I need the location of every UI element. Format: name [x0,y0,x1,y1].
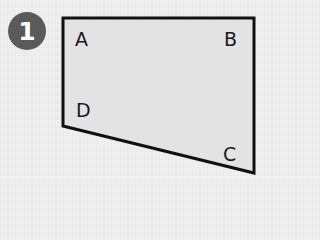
vertex-label-c: C [223,145,236,164]
vertex-label-b: B [224,30,237,49]
figure-number: 1 [18,19,35,44]
diagram-figure: 1 A B C D [0,0,262,177]
figure-number-badge: 1 [8,12,46,50]
vertex-label-d: D [76,101,91,120]
vertex-label-a: A [75,30,88,49]
